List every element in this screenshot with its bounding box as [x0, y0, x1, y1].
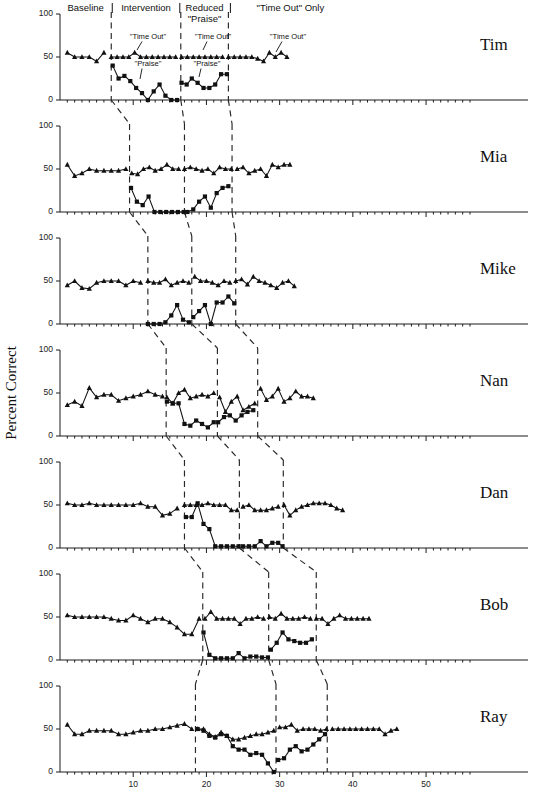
- data-point-time-out: [138, 500, 143, 505]
- data-point-time-out: [197, 616, 202, 621]
- data-point-praise: [182, 210, 186, 214]
- data-point-time-out: [276, 386, 281, 391]
- data-point-praise: [220, 300, 224, 304]
- data-point-praise: [231, 544, 235, 548]
- series-group-tim: [65, 50, 290, 102]
- annot-time-out-1: "Time Out": [130, 32, 167, 41]
- data-point-time-out: [101, 50, 106, 55]
- data-point-time-out: [258, 386, 263, 391]
- panel-name-bob: Bob: [480, 595, 508, 614]
- x-tick-label: 50: [421, 779, 431, 789]
- phase-connector: [111, 100, 129, 124]
- data-point-time-out: [79, 170, 84, 175]
- panel-name-dan: Dan: [480, 483, 509, 502]
- phase-connector: [232, 212, 236, 236]
- data-point-praise: [196, 81, 200, 85]
- data-point-praise: [311, 742, 315, 746]
- data-point-praise: [292, 639, 296, 643]
- panel-name-nan: Nan: [480, 371, 509, 390]
- data-point-time-out: [175, 624, 180, 629]
- y-tick-label: 0: [48, 94, 53, 104]
- data-point-time-out: [281, 502, 286, 507]
- phase-connector: [166, 436, 184, 460]
- data-point-praise: [269, 648, 273, 652]
- data-point-praise: [276, 758, 280, 762]
- data-point-time-out: [337, 612, 342, 617]
- data-point-praise: [190, 515, 194, 519]
- data-point-praise: [264, 544, 268, 548]
- data-point-praise: [310, 637, 314, 641]
- data-point-time-out: [302, 614, 307, 619]
- series-group-mike: [65, 274, 297, 326]
- data-point-time-out: [123, 282, 128, 287]
- annotation-leader: [203, 42, 207, 51]
- data-line-time-out: [220, 396, 255, 411]
- annotation-leader: [137, 42, 142, 51]
- x-tick-label: 40: [348, 779, 358, 789]
- data-point-praise: [275, 641, 279, 645]
- phase-connector: [236, 324, 258, 348]
- data-point-praise: [196, 727, 200, 731]
- data-point-praise: [213, 736, 217, 740]
- data-point-praise: [225, 544, 229, 548]
- data-point-time-out: [131, 278, 136, 283]
- data-point-praise: [111, 64, 115, 68]
- data-point-praise: [270, 541, 274, 545]
- panel-name-mia: Mia: [480, 147, 508, 166]
- data-line-praise: [204, 632, 268, 658]
- data-point-time-out: [331, 616, 336, 621]
- data-point-praise: [176, 210, 180, 214]
- phase-connector: [184, 212, 191, 236]
- data-point-praise: [146, 98, 150, 102]
- data-point-time-out: [188, 164, 193, 169]
- phase-label-baseline: Baseline: [67, 2, 103, 13]
- data-point-time-out: [182, 721, 187, 726]
- data-point-time-out: [284, 54, 289, 59]
- data-point-time-out: [286, 278, 291, 283]
- y-tick-label: 0: [48, 766, 53, 776]
- data-point-time-out: [221, 278, 226, 283]
- data-point-time-out: [180, 278, 185, 283]
- data-point-time-out: [240, 407, 245, 412]
- data-point-praise: [216, 420, 220, 424]
- phase-label-time-out-only: "Time Out" Only: [257, 2, 325, 13]
- phase-connector: [184, 548, 202, 572]
- data-point-praise: [266, 761, 270, 765]
- data-line-time-out: [67, 503, 177, 515]
- data-point-praise: [203, 194, 207, 198]
- data-point-praise: [251, 408, 255, 412]
- data-point-time-out: [175, 506, 180, 511]
- data-line-time-out: [67, 615, 199, 634]
- data-point-time-out: [251, 274, 256, 279]
- data-point-time-out: [65, 162, 70, 167]
- data-point-time-out: [217, 164, 222, 169]
- data-point-praise: [323, 732, 327, 736]
- y-tick-label: 0: [48, 206, 53, 216]
- y-tick-label: 50: [44, 163, 54, 173]
- y-tick-label: 0: [48, 430, 53, 440]
- y-tick-label: 100: [39, 456, 53, 466]
- phase-label-reduced-praise-line1: Reduced: [186, 2, 224, 13]
- data-point-time-out: [205, 166, 210, 171]
- data-point-praise: [164, 210, 168, 214]
- data-line-time-out: [332, 729, 396, 734]
- data-point-praise: [219, 72, 223, 76]
- data-point-praise: [248, 753, 252, 757]
- y-tick-label: 0: [48, 542, 53, 552]
- annotation-leader: [199, 69, 201, 78]
- data-point-time-out: [270, 162, 275, 167]
- data-point-praise: [305, 748, 309, 752]
- multiple-baseline-chart: Percent Correct100500Tim100500Mia100500M…: [0, 0, 534, 796]
- data-point-praise: [152, 89, 156, 93]
- data-point-praise: [225, 72, 229, 76]
- phase-connector: [192, 324, 218, 348]
- data-point-praise: [196, 501, 200, 505]
- x-tick-label: 30: [275, 779, 285, 789]
- data-point-praise: [259, 539, 263, 543]
- data-line-time-out: [67, 724, 191, 734]
- data-point-time-out: [131, 612, 136, 617]
- data-point-time-out: [267, 50, 272, 55]
- data-point-time-out: [264, 397, 269, 402]
- data-point-praise: [215, 191, 219, 195]
- data-point-praise: [191, 207, 195, 211]
